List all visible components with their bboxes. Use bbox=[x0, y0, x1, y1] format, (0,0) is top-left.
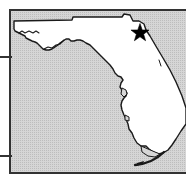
florida-locator-map: Florida bbox=[0, 0, 186, 180]
map-canvas bbox=[0, 0, 186, 180]
map-body bbox=[11, 11, 186, 173]
